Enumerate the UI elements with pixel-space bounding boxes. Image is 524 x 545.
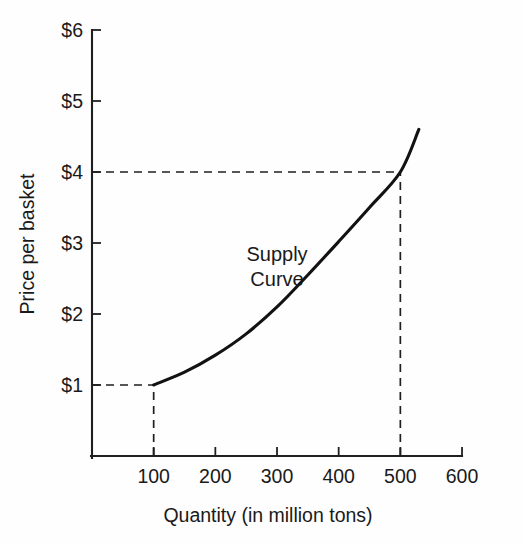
y-axis-tick-label: $2	[61, 303, 83, 325]
x-axis-ticks	[154, 447, 462, 456]
x-axis-tick-label: 100	[137, 465, 170, 487]
x-axis-tick-label: 200	[199, 465, 232, 487]
supply-curve-figure: $1$2$3$4$5$6 100200300400500600 Supply C…	[0, 0, 524, 545]
supply-curve-label-line2: Curve	[250, 268, 303, 290]
reference-lines-group	[92, 172, 400, 456]
x-axis-tick-label: 300	[261, 465, 294, 487]
y-axis-tick-label: $4	[61, 161, 83, 183]
x-axis-title: Quantity (in million tons)	[163, 504, 372, 526]
y-axis-tick-labels: $1$2$3$4$5$6	[61, 19, 83, 396]
x-axis-tick-label: 600	[446, 465, 479, 487]
x-axis-group: 100200300400500600	[91, 447, 478, 487]
annotation-group: Supply Curve	[246, 243, 307, 290]
y-axis-tick-label: $5	[61, 90, 83, 112]
x-axis-tick-labels: 100200300400500600	[137, 465, 478, 487]
y-axis-tick-label: $3	[61, 232, 83, 254]
chart-canvas: $1$2$3$4$5$6 100200300400500600 Supply C…	[0, 0, 524, 545]
y-axis-title: Price per basket	[16, 173, 38, 314]
y-axis-ticks	[92, 30, 101, 385]
y-axis-tick-label: $1	[61, 374, 83, 396]
x-axis-tick-label: 400	[322, 465, 355, 487]
y-axis-tick-label: $6	[61, 19, 83, 41]
x-axis-tick-label: 500	[384, 465, 417, 487]
supply-curve-label-line1: Supply	[246, 243, 307, 265]
y-axis-group: $1$2$3$4$5$6	[61, 19, 101, 458]
